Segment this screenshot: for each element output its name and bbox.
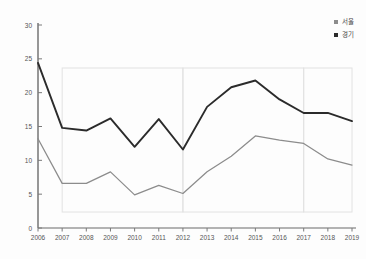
highlight-band — [62, 68, 183, 212]
x-tick-label: 2009 — [98, 234, 122, 242]
x-tick-label: 2015 — [243, 234, 267, 242]
x-tick-label: 2019 — [340, 234, 364, 242]
y-tick-label: 25 — [16, 55, 32, 62]
highlight-band — [183, 68, 304, 212]
data-series — [38, 63, 352, 195]
y-tick-label: 15 — [16, 123, 32, 130]
y-tick-label: 0 — [16, 225, 32, 232]
plot-area — [0, 0, 366, 259]
series-line-seoul — [38, 63, 352, 150]
line-chart: 051015202530 200620072008200920102011201… — [0, 0, 366, 259]
legend-item-seoul: 서울 — [334, 17, 354, 26]
square-marker-icon — [334, 20, 338, 24]
x-tick-label: 2018 — [316, 234, 340, 242]
legend-label-seoul: 서울 — [342, 17, 354, 26]
x-tick-label: 2013 — [195, 234, 219, 242]
y-tick-label: 30 — [16, 22, 32, 29]
x-tick-label: 2007 — [50, 234, 74, 242]
legend-label-gyeonggi: 경기 — [342, 30, 354, 39]
y-tick-label: 20 — [16, 89, 32, 96]
x-tick-label: 2006 — [26, 234, 50, 242]
highlight-band — [304, 68, 352, 212]
x-tick-label: 2016 — [268, 234, 292, 242]
x-tick-label: 2017 — [292, 234, 316, 242]
y-tick-label: 10 — [16, 157, 32, 164]
x-tick-label: 2008 — [74, 234, 98, 242]
chart-legend: 서울 경기 — [334, 17, 354, 39]
square-marker-icon — [334, 33, 338, 37]
x-tick-label: 2014 — [219, 234, 243, 242]
series-line-gyeonggi — [38, 136, 352, 195]
x-tick-label: 2012 — [171, 234, 195, 242]
highlight-bands — [62, 68, 352, 212]
x-tick-label: 2010 — [123, 234, 147, 242]
x-tick-label: 2011 — [147, 234, 171, 242]
legend-item-gyeonggi: 경기 — [334, 30, 354, 39]
y-tick-label: 5 — [16, 191, 32, 198]
